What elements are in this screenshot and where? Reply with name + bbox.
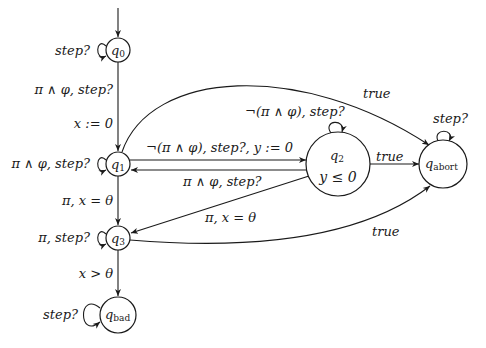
node-q2: q2 y ≤ 0 — [306, 132, 370, 196]
label-q1-q3: π, x = θ — [61, 193, 113, 208]
node-q1: q1 — [106, 152, 130, 176]
label-bad-self: step? — [43, 307, 79, 322]
node-qabort: qabort — [419, 140, 467, 188]
label-q3-bad: x > θ — [79, 266, 113, 281]
q2-self-loop — [329, 122, 342, 133]
label-q0-q1-reset: x := 0 — [74, 116, 113, 131]
label-q0-self: step? — [55, 43, 91, 58]
label-q2-self: ¬(π ∧ φ), step? — [245, 104, 346, 119]
label-q3-abort: true — [372, 224, 400, 239]
label-abort-self: step? — [433, 111, 469, 126]
label-q2-abort: true — [376, 149, 404, 164]
q0-self-loop — [98, 44, 106, 57]
label-q2-q1: π ∧ φ, step? — [182, 174, 263, 189]
node-q3: q3 — [106, 226, 130, 250]
q1-self-loop — [98, 158, 106, 171]
automaton-diagram: q0 q1 q2 y ≤ 0 q3 qabort qbad step? π ∧ … — [0, 0, 486, 348]
q3-self-loop — [98, 232, 106, 245]
label-q1-q2: ¬(π ∧ φ), step?, y := 0 — [146, 140, 293, 155]
label-q1-abort: true — [363, 86, 391, 101]
node-qbad: qbad — [100, 297, 136, 333]
label-q3-self: π, step? — [37, 230, 91, 245]
svg-text:y ≤ 0: y ≤ 0 — [318, 169, 357, 185]
label-q0-q1-guard: π ∧ φ, step? — [33, 82, 114, 97]
label-q1-self: π ∧ φ, step? — [10, 156, 91, 171]
label-q2-q3: π, x = θ — [204, 210, 256, 225]
node-q0: q0 — [106, 38, 130, 62]
qbad-self-loop — [84, 304, 101, 326]
